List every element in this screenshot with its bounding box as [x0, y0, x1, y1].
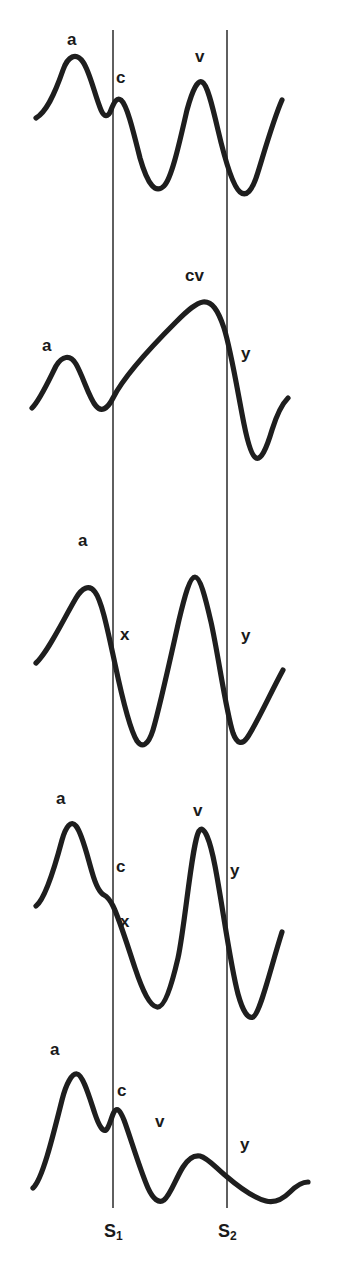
wave-label-panel-3-x: x — [120, 626, 129, 643]
wave-label-panel-5-v: v — [155, 1113, 164, 1130]
wave-label-panel-5-c: c — [117, 1082, 126, 1099]
heart-sound-subscript-s2: 2 — [230, 1229, 237, 1243]
wave-label-panel-4-a: a — [56, 790, 65, 807]
wave-label-panel-5-a: a — [50, 1041, 59, 1058]
wave-label-panel-3-y: y — [241, 627, 250, 644]
waveform-trace-blunted-v-with-slow-y-descent — [33, 1074, 308, 1202]
wave-label-panel-2-cv: cv — [185, 267, 204, 284]
waveform-trace-prominent-x-and-y-descents — [36, 577, 283, 745]
waveform-trace-tricuspid-regurgitation-cv-wave — [32, 302, 288, 458]
wave-label-panel-2-a: a — [42, 337, 51, 354]
wave-label-panel-4-v: v — [193, 802, 202, 819]
wave-label-panel-2-y: y — [241, 345, 250, 362]
waveform-trace-normal-jvp — [36, 56, 282, 193]
wave-label-panel-4-x: x — [120, 913, 129, 930]
wave-label-panel-4-c: c — [116, 858, 125, 875]
heart-sound-label-s2: S2 — [218, 1222, 237, 1240]
waveform-paths-group — [32, 56, 308, 1201]
heart-sound-label-s1: S1 — [104, 1222, 123, 1240]
wave-label-panel-1-a: a — [67, 31, 76, 48]
heart-sound-subscript-s1: 1 — [116, 1229, 123, 1243]
wave-label-panel-1-v: v — [195, 48, 204, 65]
jvp-waveform-figure: S1S2acvacvyaxyacvxyacvy — [0, 0, 344, 1272]
waveform-trace-c-and-x-with-v-wave — [36, 824, 282, 1018]
wave-label-panel-1-c: c — [116, 69, 125, 86]
waveform-canvas — [0, 0, 344, 1272]
wave-label-panel-4-y: y — [230, 862, 239, 879]
wave-label-panel-3-a: a — [78, 532, 87, 549]
wave-label-panel-5-y: y — [240, 1136, 249, 1153]
